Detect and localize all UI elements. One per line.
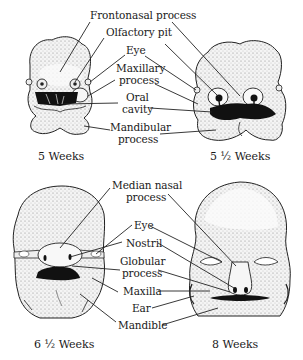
label-mandibular-process-1: Mandibular xyxy=(110,122,171,133)
label-median-nasal-process-2: process xyxy=(126,192,166,203)
embryo-6-5-weeks xyxy=(13,186,104,318)
label-frontonasal-process: Frontonasal process xyxy=(90,10,196,21)
label-olfactory-pit: Olfactory pit xyxy=(106,27,172,38)
label-median-nasal-process-1: Median nasal xyxy=(112,180,182,191)
label-mandibular-process-2: process xyxy=(118,134,158,145)
label-oral-cavity-1: Oral xyxy=(126,92,149,103)
label-globular-process-1: Globular xyxy=(120,256,165,267)
label-ear: Ear xyxy=(132,303,151,314)
label-nostril: Nostril xyxy=(126,238,162,249)
label-maxilla: Maxilla xyxy=(123,286,162,297)
label-eye-bottom: Eye xyxy=(134,220,154,231)
label-maxillary-process-2: process xyxy=(119,75,159,86)
embryo-5-5-weeks xyxy=(194,41,286,141)
label-mandible: Mandible xyxy=(118,320,167,331)
caption-6-5-weeks: 6 ½ Weeks xyxy=(34,338,94,351)
embryo-8-weeks xyxy=(189,182,290,316)
label-eye-top: Eye xyxy=(126,45,146,56)
embryo-face-development-diagram: Frontonasal process Olfactory pit Eye Ma… xyxy=(0,0,303,360)
caption-5-weeks: 5 Weeks xyxy=(38,150,84,163)
caption-5-5-weeks: 5 ½ Weeks xyxy=(210,150,270,163)
label-oral-cavity-2: cavity xyxy=(122,104,153,115)
label-globular-process-2: process xyxy=(122,268,162,279)
caption-8-weeks: 8 Weeks xyxy=(212,338,258,351)
embryo-5-weeks xyxy=(26,37,92,135)
label-maxillary-process-1: Maxillary xyxy=(116,63,165,74)
